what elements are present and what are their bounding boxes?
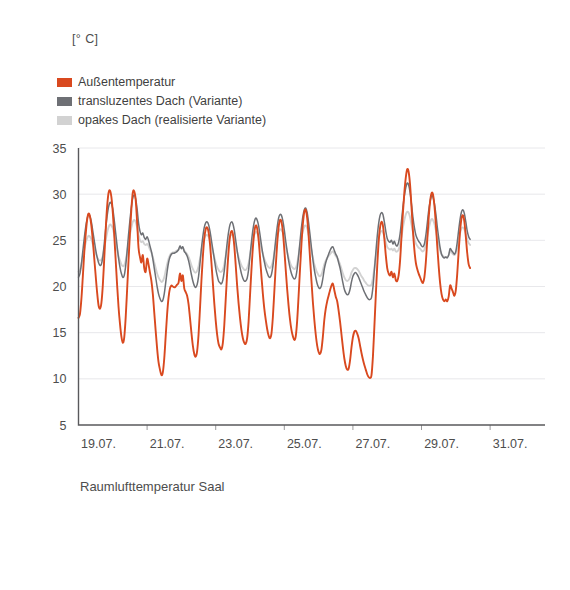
legend-item-transluzentes-dach: transluzentes Dach (Variante) [57,93,477,110]
chart-y-axis-ticks: 5101520253035 [53,142,67,433]
x-tick-label: 21.07. [150,437,185,451]
chart-series-group [79,169,471,378]
chart-legend: Außentemperatur transluzentes Dach (Vari… [57,74,477,131]
y-tick-label: 25 [53,234,67,248]
y-tick-label: 5 [60,419,67,433]
x-tick-label: 19.07. [81,437,116,451]
x-tick-label: 23.07. [218,437,253,451]
legend-swatch-aussentemperatur [57,78,72,87]
y-tick-label: 30 [53,188,67,202]
legend-label-opakes-dach: opakes Dach (realisierte Variante) [78,113,266,128]
x-tick-label: 25.07. [287,437,322,451]
x-tick-label: 27.07. [356,437,391,451]
chart-figure: [° C] Außentemperatur transluzentes Dach… [0,0,570,590]
chart-caption: Raumlufttemperatur Saal [80,479,225,494]
chart-x-axis-ticks: 19.07.21.07.23.07.25.07.27.07.29.07.31.0… [81,437,527,451]
legend-item-opakes-dach: opakes Dach (realisierte Variante) [57,112,477,129]
legend-label-transluzentes-dach: transluzentes Dach (Variante) [78,94,242,109]
series-line-aussentemperatur [79,169,471,378]
x-tick-label: 31.07. [493,437,528,451]
chart-x-axis-tick-marks [147,425,490,430]
y-tick-label: 10 [53,372,67,386]
legend-item-aussentemperatur: Außentemperatur [57,74,477,91]
legend-swatch-transluzentes-dach [57,97,72,106]
x-tick-label: 29.07. [424,437,459,451]
legend-swatch-opakes-dach [57,116,72,125]
y-tick-label: 20 [53,280,67,294]
y-tick-label: 15 [53,326,67,340]
legend-label-aussentemperatur: Außentemperatur [78,75,175,90]
y-axis-unit-label: [° C] [72,32,98,46]
y-tick-label: 35 [53,142,67,156]
